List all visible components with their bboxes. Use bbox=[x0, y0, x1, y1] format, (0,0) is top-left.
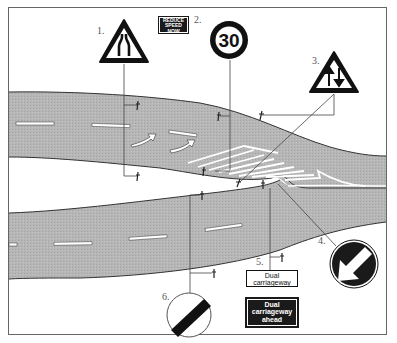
dual-carriageway-ahead-plate: Dual carriageway ahead bbox=[245, 297, 299, 328]
plate-line: ahead bbox=[246, 316, 298, 323]
plate-line: carriageway bbox=[247, 279, 297, 286]
plate-line: Dual bbox=[247, 272, 297, 279]
sign-number-6: 6. bbox=[162, 291, 170, 302]
sign-1-road-narrows bbox=[100, 20, 148, 62]
road-diagram: 1. 30 2. 3. 4. 6. 5. REDUCE bbox=[0, 0, 397, 343]
plate-line: NOW bbox=[158, 29, 189, 34]
sign-number-5: 5. bbox=[256, 256, 264, 267]
plate-line: carriageway bbox=[246, 308, 298, 315]
sign-number-4: 4. bbox=[318, 235, 326, 246]
speed-value: 30 bbox=[218, 30, 239, 51]
sign-4-keep-left bbox=[330, 240, 378, 288]
sign-number-3: 3. bbox=[312, 55, 320, 66]
plate-line: Dual bbox=[246, 301, 298, 308]
sign-number-1: 1. bbox=[97, 25, 105, 36]
diagram-canvas: 1. 30 2. 3. 4. 6. 5. bbox=[0, 0, 397, 343]
reduce-speed-now-plate: REDUCE SPEED NOW bbox=[158, 16, 189, 34]
sign-6-national-speed-limit bbox=[167, 293, 211, 337]
sign-2-speed-limit: 30 bbox=[210, 21, 248, 59]
sign-5-dual-carriageway-plate: Dual carriageway bbox=[246, 270, 298, 287]
sign-number-2: 2. bbox=[194, 14, 202, 25]
